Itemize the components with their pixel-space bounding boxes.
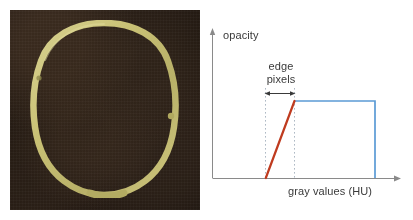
skull-bone-ring <box>28 20 180 198</box>
ct-scan-photo <box>10 10 200 210</box>
edge-pixels-arrow <box>265 91 296 96</box>
edge-pixels-label-line1: edge <box>253 60 309 73</box>
y-axis-label: opacity <box>223 29 259 42</box>
figure-root: opacity edge pixels gray values (HU) <box>0 0 413 220</box>
opacity-transfer-function-diagram: opacity edge pixels gray values (HU) <box>203 0 413 220</box>
x-axis <box>213 176 402 182</box>
edge-pixels-label-line2: pixels <box>253 73 309 86</box>
x-axis-label: gray values (HU) <box>288 185 372 198</box>
bone-plateau-line <box>295 101 376 178</box>
edge-ramp-line <box>266 101 295 178</box>
y-axis <box>210 28 215 178</box>
